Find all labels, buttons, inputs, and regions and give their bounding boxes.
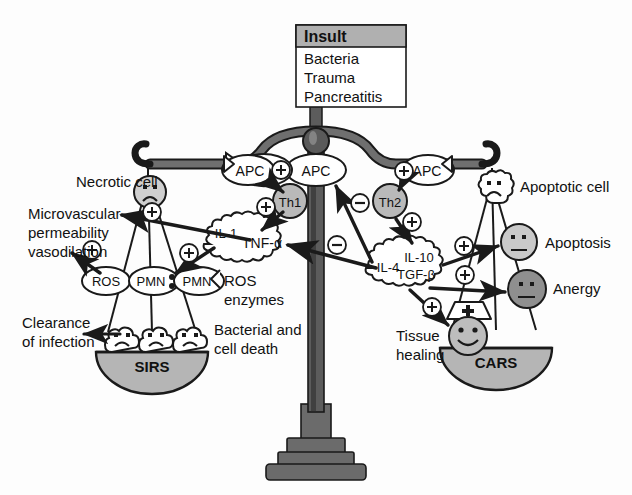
insult-item-pancreatitis: Pancreatitis (304, 88, 382, 106)
right-apc-label: APC (413, 163, 442, 179)
clearance-line-2: of infection (22, 333, 95, 351)
apoptotic-cell-label: Apoptotic cell (520, 178, 609, 196)
balance-base (266, 404, 366, 480)
insult-header: Insult (304, 28, 347, 47)
plus-badge-anergy (456, 266, 474, 284)
th2-label: Th2 (379, 195, 401, 210)
plus-badge-tissue-healing (423, 298, 441, 316)
center-apc-label: APC (302, 163, 331, 179)
left-apc-label: APC (236, 163, 265, 179)
sirs-pan-label: SIRS (134, 358, 169, 375)
anergy-node (508, 270, 546, 308)
plus-badge-apc-th1 (272, 161, 290, 179)
microvascular-line-2: permeability (28, 224, 109, 242)
minus-badge-tnf-cloud (328, 236, 346, 254)
left-cytokine-cloud: IL-1 TNF-α (204, 212, 282, 262)
pmn-node-1: PMN (129, 267, 179, 295)
il4-label: IL-4 (377, 260, 399, 275)
center-apc-node: APC (286, 154, 346, 186)
ros-node: ROS (82, 267, 130, 295)
tissue-healing-node (447, 302, 491, 355)
microvascular-line-1: Microvascular (28, 205, 121, 223)
apoptotic-cell-icon (479, 168, 514, 203)
necrotic-cell-label: Necrotic cell (76, 173, 158, 191)
plus-badge-th1-cytokine (257, 198, 275, 216)
apoptosis-label: Apoptosis (545, 234, 611, 252)
pmn-label-2: PMN (183, 274, 212, 289)
plus-badge-microvascular (143, 203, 161, 221)
diagram-canvas: SIRS CARS (0, 0, 632, 495)
ros-enzymes-line-1: ROS (224, 272, 257, 290)
bacterial-death-line-1: Bacterial and (214, 321, 302, 339)
plus-badge-pmn (180, 244, 198, 262)
anergy-label: Anergy (553, 280, 601, 298)
ros-enzymes-line-2: enzymes (224, 291, 284, 309)
insult-item-trauma: Trauma (304, 69, 355, 87)
plus-badge-apc-th2 (395, 162, 413, 180)
pmn-label-1: PMN (137, 274, 166, 289)
right-cytokine-cloud: IL-4 IL-10 TGF-β (366, 236, 443, 286)
plus-badge-th2-cytokine (403, 213, 421, 231)
tissue-healing-line-1: Tissue (396, 327, 440, 345)
th1-label: Th1 (279, 195, 301, 210)
insult-item-bacteria: Bacteria (304, 50, 359, 68)
plus-badge-apoptosis (455, 237, 473, 255)
minus-badge-center-apc (351, 194, 369, 212)
microvascular-line-3: vasodilation (28, 243, 107, 261)
tnf-alpha-label: TNF-α (242, 235, 282, 251)
il10-label: IL-10 (404, 250, 434, 265)
tissue-healing-line-2: healing (396, 346, 444, 364)
tgf-beta-label: TGF-β (397, 267, 435, 282)
apoptosis-node (501, 224, 537, 260)
sirs-dying-cells (105, 327, 207, 352)
cars-pan-label: CARS (475, 354, 518, 371)
clearance-line-1: Clearance (22, 314, 90, 332)
ros-label: ROS (92, 274, 121, 289)
th2-node: Th2 (373, 184, 407, 218)
bacterial-death-line-2: cell death (214, 340, 278, 358)
